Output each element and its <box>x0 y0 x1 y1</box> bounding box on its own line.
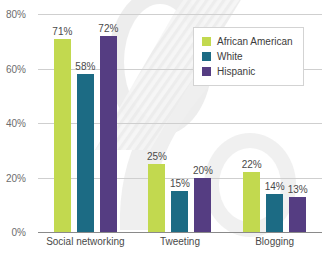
bar[interactable]: 22% <box>243 172 260 232</box>
y-axis-tick-label: 20% <box>0 172 26 183</box>
y-axis-tick-label: 40% <box>0 118 26 129</box>
bar-group: 71%58%72%Social networking <box>38 14 133 232</box>
legend-item[interactable]: African American <box>202 34 293 49</box>
legend-swatch-icon <box>202 37 211 46</box>
bar[interactable]: 72% <box>100 36 117 232</box>
legend-item[interactable]: White <box>202 49 293 64</box>
bar-fill <box>243 172 260 232</box>
bar-chart: 0%20%40%60%80% 71%58%72%Social networkin… <box>0 0 330 255</box>
bar-value-label: 72% <box>98 23 118 34</box>
y-axis-tick-label: 60% <box>0 63 26 74</box>
axis-line-zero <box>38 232 322 233</box>
bar-fill <box>171 191 188 232</box>
legend-item-label: White <box>217 51 243 62</box>
bar-value-label: 20% <box>193 165 213 176</box>
legend-item[interactable]: Hispanic <box>202 64 293 79</box>
bar-value-label: 14% <box>265 181 285 192</box>
bar-value-label: 58% <box>75 61 95 72</box>
bar-value-label: 13% <box>288 184 308 195</box>
chart-legend: African AmericanWhiteHispanic <box>193 27 304 86</box>
bar-value-label: 71% <box>52 26 72 37</box>
x-axis-category-label: Tweeting <box>160 236 200 247</box>
legend-swatch-icon <box>202 52 211 61</box>
bar[interactable]: 20% <box>194 178 211 233</box>
bar-fill <box>289 197 306 232</box>
y-axis-tick-label: 0% <box>0 227 26 238</box>
x-axis-category-label: Social networking <box>46 236 124 247</box>
bar[interactable]: 14% <box>266 194 283 232</box>
bar-fill <box>54 39 71 232</box>
bar[interactable]: 71% <box>54 39 71 232</box>
bar-fill <box>100 36 117 232</box>
x-axis-category-label: Blogging <box>255 236 294 247</box>
legend-item-label: African American <box>217 36 293 47</box>
bar-value-label: 15% <box>170 178 190 189</box>
bar[interactable]: 15% <box>171 191 188 232</box>
bar-fill <box>77 74 94 232</box>
bar-fill <box>148 164 165 232</box>
legend-swatch-icon <box>202 67 211 76</box>
bar-value-label: 22% <box>242 159 262 170</box>
bar[interactable]: 13% <box>289 197 306 232</box>
bar[interactable]: 25% <box>148 164 165 232</box>
bar-value-label: 25% <box>147 151 167 162</box>
bar[interactable]: 58% <box>77 74 94 232</box>
legend-item-label: Hispanic <box>217 66 255 77</box>
bar-fill <box>194 178 211 233</box>
y-axis-tick-label: 80% <box>0 9 26 20</box>
bar-fill <box>266 194 283 232</box>
